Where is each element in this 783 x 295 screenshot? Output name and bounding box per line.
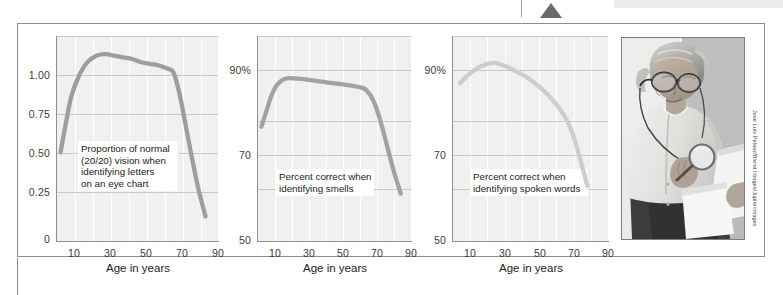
photo-credit: Jose Luis Pelaez/Blend Images/Jupiterima… [752,110,758,227]
photo-older-woman-reading [621,37,745,240]
photo-image [622,38,744,239]
figure-page: 1.00 0.75 0.50 0.25 0 10 30 50 70 90 Age… [0,0,783,295]
